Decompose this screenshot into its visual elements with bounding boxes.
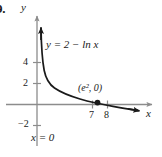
y-tick-label-2: 2 [23, 78, 28, 88]
x-tick-label-8: 8 [104, 110, 109, 120]
textbook-figure: 9. y x y = 2 − ln x (e², 0) x = 0 4 2 −2… [0, 0, 162, 157]
x-tick-label-7: 7 [89, 110, 94, 120]
y-axis-label: y [21, 2, 26, 13]
y-tick-label-minus-2: −2 [18, 119, 29, 129]
equation-label: y = 2 − ln x [46, 39, 98, 50]
y-tick-label-4: 4 [23, 57, 28, 67]
x-axis-label: x [146, 108, 151, 119]
asymptote-label: x = 0 [31, 132, 54, 143]
curve-arrow-right [128, 109, 140, 111]
intercept-label: (e², 0) [78, 83, 102, 93]
exercise-number: 9. [0, 2, 5, 15]
intercept-point [95, 100, 101, 106]
